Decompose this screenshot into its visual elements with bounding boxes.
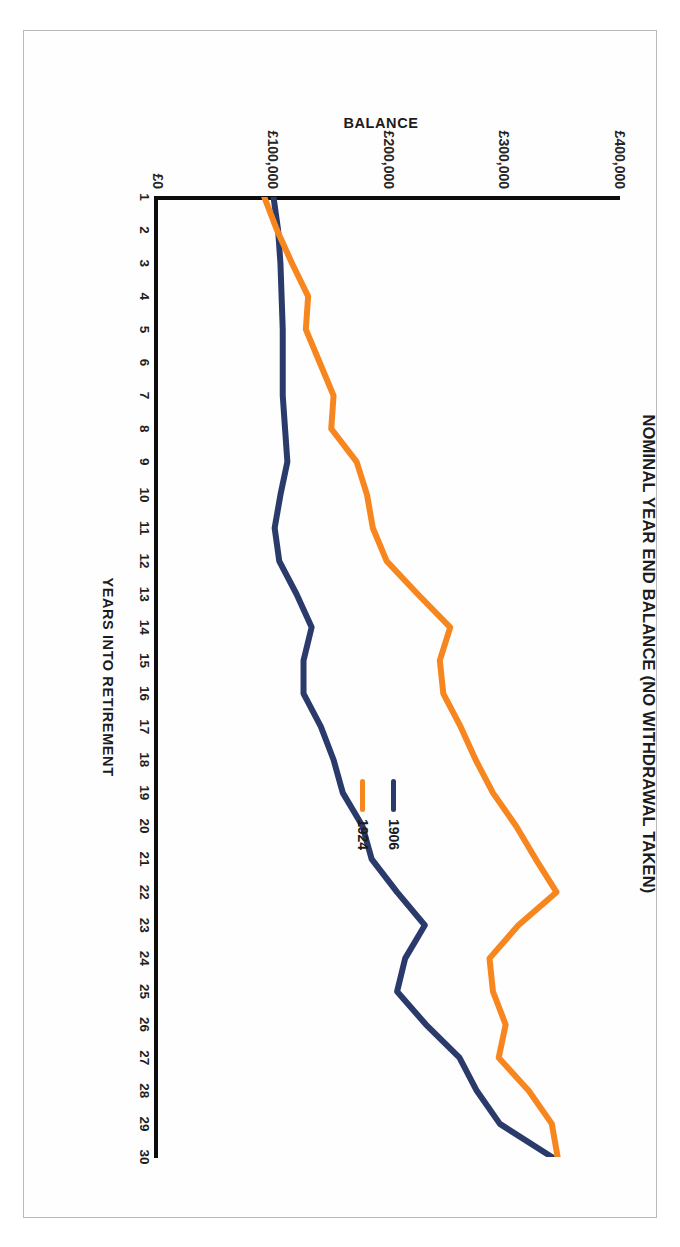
x-axis-tick-label: 26 — [137, 1017, 152, 1032]
y-axis-tick-label: £0 — [150, 173, 166, 189]
x-axis-tick-label: 9 — [137, 458, 152, 466]
x-axis-tick-label: 13 — [137, 587, 152, 602]
scanned-page: NOMINAL YEAR END BALANCE (NO WITHDRAWAL … — [0, 0, 680, 1247]
x-axis-tick-label: 4 — [137, 293, 152, 301]
x-axis-tick-label: 20 — [137, 818, 152, 833]
legend-label: 1906 — [386, 819, 402, 850]
x-axis-tick-label: 25 — [137, 984, 152, 999]
series-svg — [158, 197, 620, 1157]
x-axis-tick-label: 22 — [137, 885, 152, 900]
y-axis-tick-label: £200,000 — [381, 131, 397, 189]
y-axis-tick-labels: £0£100,000£200,000£300,000£400,000 — [158, 85, 620, 189]
legend-item-1906[interactable]: 1906 — [386, 779, 402, 850]
x-axis-title: YEARS INTO RETIREMENT — [100, 197, 116, 1157]
y-axis-tick-label: £300,000 — [497, 131, 513, 189]
chart-area: NOMINAL YEAR END BALANCE (NO WITHDRAWAL … — [64, 79, 664, 1229]
x-axis-tick-label: 17 — [137, 719, 152, 734]
x-axis-tick-label: 28 — [137, 1083, 152, 1098]
x-axis-tick-label: 5 — [137, 326, 152, 334]
legend-swatch-icon — [361, 779, 366, 812]
chart-legend: 19061924 — [355, 779, 402, 850]
x-axis-tick-label: 23 — [137, 918, 152, 933]
series-line-1924 — [264, 197, 557, 1157]
legend-swatch-icon — [392, 779, 397, 812]
x-axis-tick-label: 6 — [137, 359, 152, 367]
x-axis-tick-label: 18 — [137, 752, 152, 767]
y-axis-tick-label: £400,000 — [612, 131, 628, 189]
x-axis-tick-label: 7 — [137, 392, 152, 400]
page-border: NOMINAL YEAR END BALANCE (NO WITHDRAWAL … — [23, 30, 657, 1218]
series-line-1906 — [274, 197, 552, 1157]
x-axis-tick-label: 19 — [137, 785, 152, 800]
x-axis-tick-label: 21 — [137, 852, 152, 867]
x-axis-tick-label: 29 — [137, 1116, 152, 1131]
x-axis-tick-label: 14 — [137, 620, 152, 635]
x-axis-tick-label: 3 — [137, 259, 152, 267]
chart-title: NOMINAL YEAR END BALANCE (NO WITHDRAWAL … — [639, 79, 658, 1229]
x-axis-tick-label: 2 — [137, 226, 152, 234]
y-axis-title: BALANCE — [321, 115, 441, 131]
x-axis-tick-label: 10 — [137, 487, 152, 502]
legend-item-1924[interactable]: 1924 — [355, 779, 371, 850]
x-axis-tick-label: 1 — [137, 193, 152, 201]
x-axis-tick-label: 15 — [137, 653, 152, 668]
x-axis-tick-label: 16 — [137, 686, 152, 701]
x-axis-tick-label: 12 — [137, 554, 152, 569]
x-axis-tick-labels: 1234567891011121314151617181920212223242… — [128, 197, 152, 1157]
legend-label: 1924 — [355, 819, 371, 850]
x-axis-tick-label: 8 — [137, 425, 152, 433]
x-axis-tick-label: 27 — [137, 1050, 152, 1065]
x-axis-tick-label: 24 — [137, 951, 152, 966]
x-axis-tick-label: 11 — [137, 521, 152, 535]
rotated-chart-wrapper: NOMINAL YEAR END BALANCE (NO WITHDRAWAL … — [64, 79, 664, 1229]
x-axis-tick-label: 30 — [137, 1149, 152, 1164]
y-axis-tick-label: £100,000 — [266, 131, 282, 189]
plot-lines — [158, 197, 620, 1157]
